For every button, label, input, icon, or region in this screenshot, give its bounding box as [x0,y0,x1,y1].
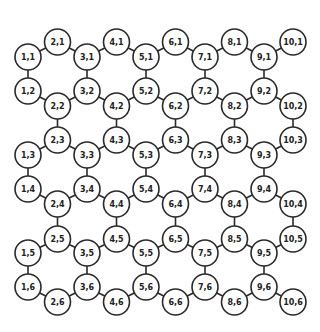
node-label: 7,4 [198,185,213,194]
node-9-3: 9,3 [251,142,277,168]
node-label: 8,5 [227,235,242,244]
node-8-2: 8,2 [222,93,248,119]
node-label: 6,1 [168,38,183,47]
node-5-3: 5,3 [133,142,159,168]
node-2-3: 2,3 [45,127,71,153]
node-2-5: 2,5 [45,226,71,252]
node-label: 10,2 [283,102,303,111]
node-7-6: 7,6 [192,274,218,300]
node-label: 3,3 [80,151,94,160]
node-label: 5,3 [139,151,153,160]
node-10-5: 10,5 [280,226,306,252]
node-label: 1,2 [21,87,35,96]
node-3-5: 3,5 [74,240,100,266]
node-10-1: 10,1 [280,29,306,55]
node-label: 6,5 [168,235,183,244]
node-label: 2,1 [50,38,65,47]
node-label: 8,3 [227,136,241,145]
node-label: 9,4 [257,185,272,194]
node-label: 4,5 [109,235,124,244]
node-label: 6,3 [168,136,182,145]
node-label: 10,1 [283,38,303,47]
node-6-6: 6,6 [163,289,189,315]
node-5-1: 5,1 [133,44,159,70]
node-label: 9,2 [257,87,271,96]
node-8-5: 8,5 [222,226,248,252]
node-label: 7,6 [198,283,213,292]
node-label: 2,2 [50,102,64,111]
node-7-5: 7,5 [192,240,218,266]
node-label: 7,1 [198,53,213,62]
node-2-4: 2,4 [45,191,71,217]
node-label: 4,1 [109,38,124,47]
node-label: 10,5 [283,235,303,244]
node-9-6: 9,6 [251,274,277,300]
node-8-6: 8,6 [222,289,248,315]
node-4-1: 4,1 [104,29,130,55]
node-label: 5,1 [139,53,154,62]
node-label: 9,1 [257,53,272,62]
node-label: 7,2 [198,87,212,96]
node-label: 1,3 [21,151,35,160]
node-3-4: 3,4 [74,176,100,202]
node-label: 1,6 [21,283,36,292]
node-label: 8,4 [227,200,242,209]
node-1-6: 1,6 [15,274,41,300]
node-6-4: 6,4 [163,191,189,217]
node-8-3: 8,3 [222,127,248,153]
node-9-2: 9,2 [251,78,277,104]
node-7-3: 7,3 [192,142,218,168]
node-2-1: 2,1 [45,29,71,55]
node-6-2: 6,2 [163,93,189,119]
node-label: 3,2 [80,87,94,96]
node-3-3: 3,3 [74,142,100,168]
node-4-5: 4,5 [104,226,130,252]
node-label: 6,4 [168,200,183,209]
node-7-4: 7,4 [192,176,218,202]
node-1-2: 1,2 [15,78,41,104]
node-5-4: 5,4 [133,176,159,202]
node-1-4: 1,4 [15,176,41,202]
node-1-5: 1,5 [15,240,41,266]
node-10-6: 10,6 [280,289,306,315]
node-5-6: 5,6 [133,274,159,300]
node-label: 6,6 [168,298,183,307]
node-label: 4,6 [109,298,124,307]
node-label: 5,5 [139,249,154,258]
hex-grid-diagram: 1,12,13,14,15,16,17,18,19,110,11,22,23,2… [0,0,320,332]
node-5-5: 5,5 [133,240,159,266]
node-label: 6,2 [168,102,182,111]
node-6-1: 6,1 [163,29,189,55]
node-label: 1,5 [21,249,36,258]
node-label: 3,5 [80,249,95,258]
node-label: 9,5 [257,249,272,258]
node-4-4: 4,4 [104,191,130,217]
node-label: 1,1 [21,53,36,62]
node-7-2: 7,2 [192,78,218,104]
node-8-4: 8,4 [222,191,248,217]
node-label: 7,5 [198,249,213,258]
node-6-5: 6,5 [163,226,189,252]
node-label: 2,6 [50,298,65,307]
node-label: 5,6 [139,283,154,292]
edges-layer [28,42,293,302]
node-4-2: 4,2 [104,93,130,119]
node-label: 4,3 [109,136,123,145]
node-label: 3,6 [80,283,95,292]
node-label: 8,1 [227,38,242,47]
node-4-6: 4,6 [104,289,130,315]
node-3-2: 3,2 [74,78,100,104]
node-10-2: 10,2 [280,93,306,119]
node-label: 2,4 [50,200,65,209]
node-label: 2,5 [50,235,65,244]
node-3-6: 3,6 [74,274,100,300]
node-label: 4,4 [109,200,124,209]
node-label: 9,6 [257,283,272,292]
node-label: 10,3 [283,136,303,145]
node-1-1: 1,1 [15,44,41,70]
node-label: 3,4 [80,185,95,194]
node-10-4: 10,4 [280,191,306,217]
node-5-2: 5,2 [133,78,159,104]
node-4-3: 4,3 [104,127,130,153]
node-8-1: 8,1 [222,29,248,55]
